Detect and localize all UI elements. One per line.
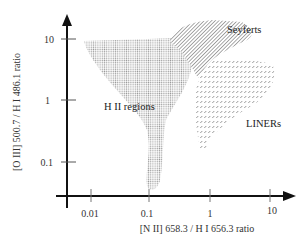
y-tick-10: 10 bbox=[44, 34, 54, 45]
x-axis-label: [N II] 658.3 / H I 656.3 ratio bbox=[140, 223, 255, 234]
y-tick-0-1: 0.1 bbox=[41, 157, 54, 168]
hii-region-label: H II regions bbox=[104, 101, 155, 112]
x-tick-0-01: 0.01 bbox=[81, 208, 99, 219]
seyfert-region-label: Seyferts bbox=[227, 24, 261, 35]
x-tick-1: 1 bbox=[208, 208, 213, 219]
y-tick-1: 1 bbox=[45, 95, 50, 106]
liner-region-label: LINERs bbox=[246, 118, 281, 129]
liner-region bbox=[195, 60, 274, 150]
bpt-diagram: 10 1 0.1 0.01 0.1 1 10 [N II] 658.3 / H … bbox=[0, 0, 305, 237]
x-tick-10: 10 bbox=[267, 205, 277, 216]
y-ticks: 10 1 0.1 bbox=[41, 34, 77, 168]
x-tick-0-1: 0.1 bbox=[141, 208, 154, 219]
hii-region bbox=[84, 38, 192, 190]
y-axis-label: [O III] 500.7 / H I 486.1 ratio bbox=[11, 53, 22, 171]
x-axis-arrow-icon bbox=[283, 191, 296, 201]
x-ticks: 0.01 0.1 1 10 bbox=[81, 189, 277, 219]
y-axis-arrow-icon bbox=[62, 14, 72, 26]
